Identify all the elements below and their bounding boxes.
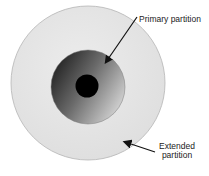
center-hole <box>76 75 99 98</box>
extended-partition-label-line2: partition <box>162 150 193 160</box>
primary-partition-label: Primary partition <box>139 14 201 24</box>
partition-diagram: Primary partition Extended partition <box>0 0 209 176</box>
